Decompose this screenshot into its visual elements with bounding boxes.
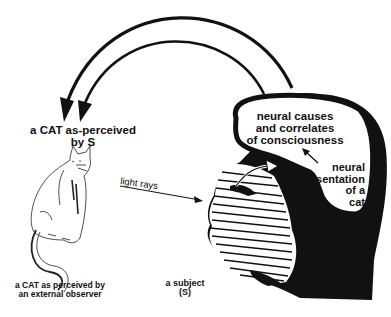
label-line: and correlates xyxy=(244,122,346,134)
label-line: of a xyxy=(275,185,365,197)
label-cat-external-observer: a CAT as perceived by an external observ… xyxy=(4,281,116,299)
light-rays-arrow xyxy=(120,186,203,203)
label-neural-causes: neural causes and correlates of consciou… xyxy=(244,110,346,146)
label-line: of consciousness xyxy=(244,134,346,146)
label-cat-as-perceived-by-s: a CAT as-perceived by S xyxy=(18,124,148,148)
label-line: neural xyxy=(275,162,365,174)
label-line: neural causes xyxy=(244,110,346,122)
label-subject: a subject (S) xyxy=(160,279,210,298)
diagram-graphics xyxy=(0,0,391,317)
label-line: (S) xyxy=(160,288,210,297)
label-neural-representation: neural representation of a cat xyxy=(275,162,365,208)
label-line: by S xyxy=(18,136,148,148)
cat-drawing xyxy=(31,146,90,292)
label-line: cat xyxy=(275,197,365,209)
label-line: an external observer xyxy=(4,290,116,299)
consciousness-diagram: a CAT as-perceived by S a CAT as perceiv… xyxy=(0,0,391,317)
label-line: a CAT as-perceived xyxy=(18,124,148,136)
